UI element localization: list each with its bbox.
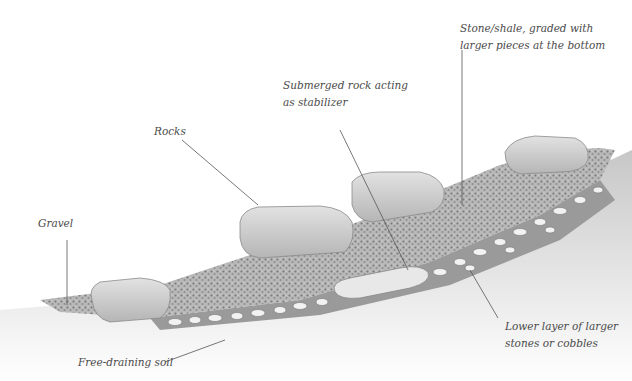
label-submerged-rock-line2: as stabilizer [283,94,408,111]
label-stone-shale: Stone/shale, graded with larger pieces a… [460,20,605,54]
label-stone-shale-line1: Stone/shale, graded with [460,20,605,37]
label-free-draining-soil: Free-draining soil [78,354,173,371]
diagram-canvas: Stone/shale, graded with larger pieces a… [0,0,632,381]
rock-4 [505,136,588,174]
leader-rocks [182,140,258,205]
label-submerged-rock: Submerged rock acting as stabilizer [283,77,408,111]
label-lower-layer-line1: Lower layer of larger [505,318,618,335]
label-rocks: Rocks [154,123,186,140]
label-stone-shale-line2: larger pieces at the bottom [460,37,605,54]
label-soil-line1: Free-draining soil [78,354,173,371]
label-rocks-line1: Rocks [154,123,186,140]
label-submerged-rock-line1: Submerged rock acting [283,77,408,94]
label-lower-layer: Lower layer of larger stones or cobbles [505,318,618,352]
label-gravel-line1: Gravel [38,215,73,232]
label-gravel: Gravel [38,215,73,232]
label-lower-layer-line2: stones or cobbles [505,335,618,352]
rock-1 [91,278,170,322]
rock-2 [240,206,353,258]
